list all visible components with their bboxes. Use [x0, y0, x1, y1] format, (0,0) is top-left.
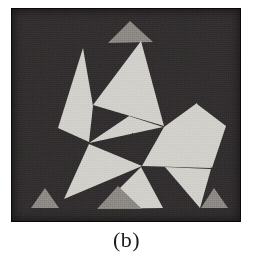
- figure-panel: [11, 8, 241, 222]
- figure-root: (b): [0, 0, 253, 260]
- triangle-mosaic-svg: [11, 8, 241, 222]
- figure-caption: (b): [0, 226, 253, 254]
